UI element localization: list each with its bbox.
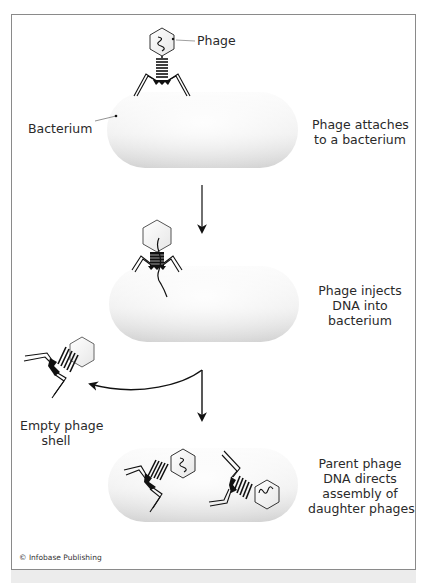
copyright-credit: © Infobase Publishing xyxy=(19,553,102,562)
phage-attached xyxy=(134,28,195,96)
bacterium-step2 xyxy=(109,266,299,342)
phage-label: Phage xyxy=(197,33,236,48)
step-assemble-caption: Parent phage DNA directs assembly of dau… xyxy=(308,456,412,516)
arrow-release-shell xyxy=(90,370,202,390)
bacterium-label: Bacterium xyxy=(28,121,92,136)
step-attach-caption: Phage attaches to a bacterium xyxy=(312,117,408,147)
empty-shell-label: Empty phage shell xyxy=(20,418,92,448)
empty-phage-shell xyxy=(24,337,94,398)
bacterium-step1 xyxy=(107,92,298,168)
step-inject-caption: Phage injects DNA into bacterium xyxy=(312,283,408,328)
